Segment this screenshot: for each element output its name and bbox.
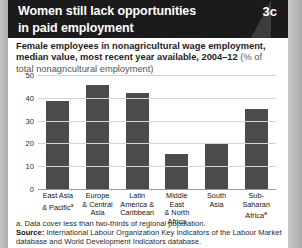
y-axis-tick-40: 40 (26, 93, 34, 102)
figure-panel: Women still lack opportunities in paid e… (0, 0, 302, 248)
bar (126, 93, 149, 190)
bar (86, 85, 109, 190)
gridline-10: 10 (38, 166, 276, 167)
gridline-0: 0 (38, 189, 276, 190)
figure-title-line2: in paid employment (18, 20, 253, 37)
page-left-margin (0, 0, 8, 248)
bar-item (197, 76, 237, 190)
figure-notes: a. Data cover less than two-thirds of re… (16, 219, 282, 247)
footnote-marker: a (264, 210, 267, 216)
bar-item (38, 76, 78, 190)
bar (165, 154, 188, 190)
bar (46, 101, 69, 190)
figure-header: Women still lack opportunities in paid e… (8, 0, 288, 38)
gridline-40: 40 (38, 98, 276, 99)
gridline-20: 20 (38, 143, 276, 144)
bar-item (157, 76, 197, 190)
source-note: Source: International Labour Organizatio… (16, 228, 282, 246)
bar-series (38, 76, 276, 190)
figure-title-line1: Women still lack opportunities (18, 4, 196, 18)
bar-item (236, 76, 276, 190)
footnote-marker: a (71, 202, 74, 208)
plot-area: 01020304050 (38, 76, 276, 190)
y-axis-tick-20: 20 (26, 139, 34, 148)
figure-title: Women still lack opportunities in paid e… (18, 3, 253, 37)
gridline-30: 30 (38, 121, 276, 122)
bar-item (117, 76, 157, 190)
y-axis-tick-50: 50 (26, 71, 34, 80)
footnote-a: a. Data cover less than two-thirds of re… (16, 219, 282, 228)
bar-chart: 01020304050 East Asia& PacificaEurope& C… (16, 76, 280, 214)
y-axis-tick-0: 0 (30, 185, 34, 194)
figure-subtitle: Female employees in nonagricultural wage… (16, 41, 280, 75)
y-axis-tick-30: 30 (26, 116, 34, 125)
page-right-margin (288, 0, 302, 248)
figure-number-badge: 3c (263, 4, 277, 19)
source-label: Source: (16, 228, 44, 237)
y-axis-tick-10: 10 (26, 162, 34, 171)
bar-item (78, 76, 118, 190)
source-text: International Labour Organization Key In… (16, 228, 282, 246)
gridline-50: 50 (38, 75, 276, 76)
figure-subtitle-main: Female employees in nonagricultural wage… (16, 41, 266, 62)
